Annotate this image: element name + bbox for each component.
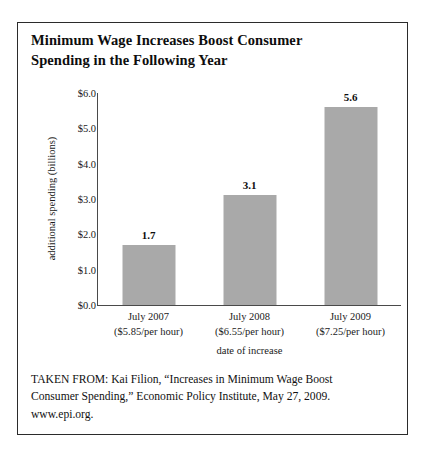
bar-july-2008 bbox=[223, 195, 276, 305]
y-tick-label-0: $0.0 bbox=[54, 300, 96, 311]
bar-slot-0: 1.7 bbox=[98, 93, 199, 305]
x-axis-tick-labels: July 2007 ($5.85/per hour) July 2008 ($6… bbox=[98, 309, 401, 349]
x-category-0-name: July 2007 bbox=[128, 311, 169, 322]
page-title: Minimum Wage Increases Boost Consumer Sp… bbox=[31, 31, 381, 70]
y-tick-label-2: $2.0 bbox=[54, 229, 96, 240]
x-category-1: July 2008 ($6.55/per hour) bbox=[199, 309, 300, 339]
bar-july-2009 bbox=[324, 107, 377, 305]
bar-slot-2: 5.6 bbox=[300, 93, 401, 305]
chart-title-line-2: Spending in the Following Year bbox=[31, 52, 228, 68]
x-category-1-rate: ($6.55/per hour) bbox=[199, 324, 300, 339]
bar-value-label-2: 5.6 bbox=[344, 91, 358, 103]
x-category-2: July 2009 ($7.25/per hour) bbox=[300, 309, 401, 339]
y-axis-tick-labels: $6.0 $5.0 $4.0 $3.0 $2.0 $1.0 $0.0 bbox=[48, 93, 96, 305]
y-tick-label-4: $4.0 bbox=[54, 158, 96, 169]
y-tick-label-3: $3.0 bbox=[54, 194, 96, 205]
source-attribution: TAKEN FROM: Kai Filion, “Increases in Mi… bbox=[31, 371, 389, 423]
bar-july-2007 bbox=[122, 245, 175, 305]
chart-title-line-1: Minimum Wage Increases Boost Consumer bbox=[31, 32, 302, 48]
bar-series: 1.7 3.1 5.6 bbox=[98, 93, 401, 305]
figure-panel: Minimum Wage Increases Boost Consumer Sp… bbox=[17, 22, 408, 435]
x-axis-title: date of increase bbox=[98, 345, 401, 356]
bar-value-label-0: 1.7 bbox=[142, 229, 156, 241]
y-tick-label-6: $6.0 bbox=[54, 88, 96, 99]
y-tick-label-5: $5.0 bbox=[54, 123, 96, 134]
x-axis-line bbox=[97, 305, 401, 306]
bar-slot-1: 3.1 bbox=[199, 93, 300, 305]
x-category-2-rate: ($7.25/per hour) bbox=[300, 324, 401, 339]
source-line-2: Consumer Spending,” Economic Policy Inst… bbox=[31, 390, 330, 403]
x-category-0: July 2007 ($5.85/per hour) bbox=[98, 309, 199, 339]
source-line-3: www.epi.org. bbox=[31, 408, 93, 421]
x-category-1-name: July 2008 bbox=[229, 311, 270, 322]
source-line-1: TAKEN FROM: Kai Filion, “Increases in Mi… bbox=[31, 373, 333, 386]
bar-value-label-1: 3.1 bbox=[243, 179, 257, 191]
x-category-2-name: July 2009 bbox=[330, 311, 371, 322]
x-category-0-rate: ($5.85/per hour) bbox=[98, 324, 199, 339]
chart-plot-region: additional spending (billions) $6.0 $5.0… bbox=[18, 93, 409, 358]
y-tick-label-1: $1.0 bbox=[54, 264, 96, 275]
